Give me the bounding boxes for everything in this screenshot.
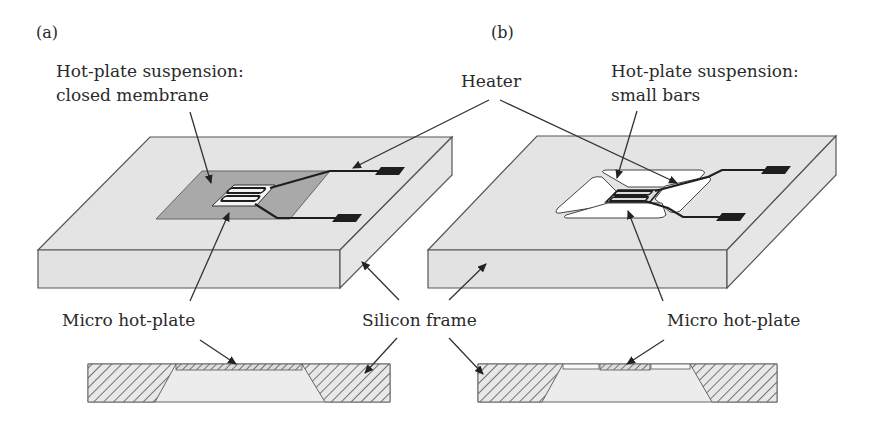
label-suspension-a-line1: Hot-plate suspension: bbox=[56, 61, 244, 81]
hotplate-diagram: (a) (b) bbox=[0, 0, 870, 425]
panel-label-a: (a) bbox=[36, 23, 58, 42]
label-suspension-b-line2: small bars bbox=[611, 85, 700, 105]
label-micro-hotplate-b: Micro hot-plate bbox=[667, 310, 800, 330]
label-suspension-a-line2: closed membrane bbox=[56, 85, 209, 105]
arrow-silicon-frame-a bbox=[362, 262, 399, 300]
label-micro-hotplate-a: Micro hot-plate bbox=[62, 310, 195, 330]
arrow-xsec-hotplate-a bbox=[200, 340, 236, 364]
cross-section-b bbox=[478, 364, 777, 402]
arrow-xsec-frame-b bbox=[449, 338, 483, 374]
arrow-xsec-hotplate-b bbox=[627, 340, 664, 364]
cross-section-a bbox=[88, 364, 390, 402]
label-heater: Heater bbox=[461, 71, 522, 91]
label-suspension-b-line1: Hot-plate suspension: bbox=[611, 61, 799, 81]
label-silicon-frame: Silicon frame bbox=[362, 310, 477, 330]
panel-label-b: (b) bbox=[491, 23, 514, 42]
